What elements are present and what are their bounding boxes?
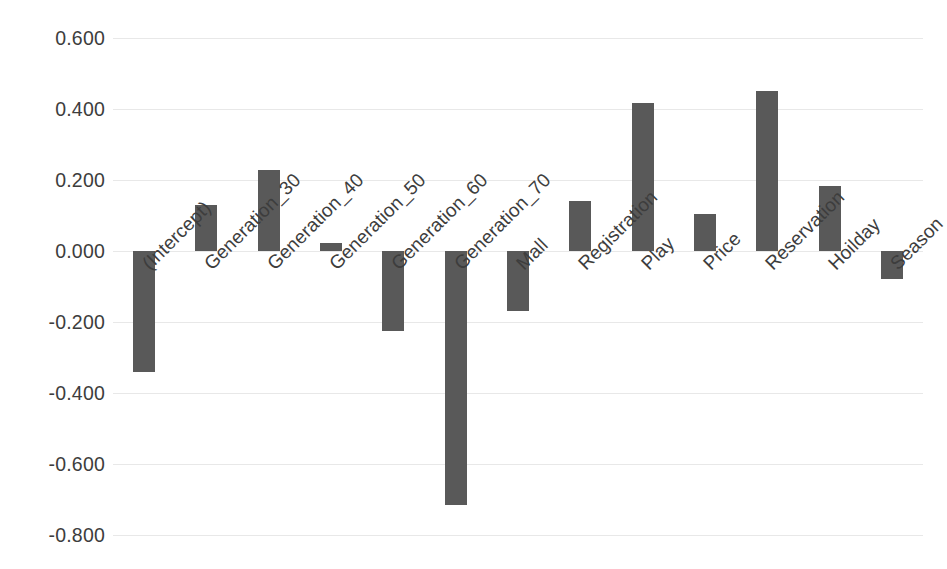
x-axis-tick-label: Price <box>699 228 746 275</box>
x-axis-tick-label: Mall <box>512 234 552 274</box>
x-axis-tick-label: Play <box>637 233 679 275</box>
x-axis-tick-label: Hoilday <box>824 214 885 275</box>
x-axis-tick-label: Season <box>886 213 947 275</box>
